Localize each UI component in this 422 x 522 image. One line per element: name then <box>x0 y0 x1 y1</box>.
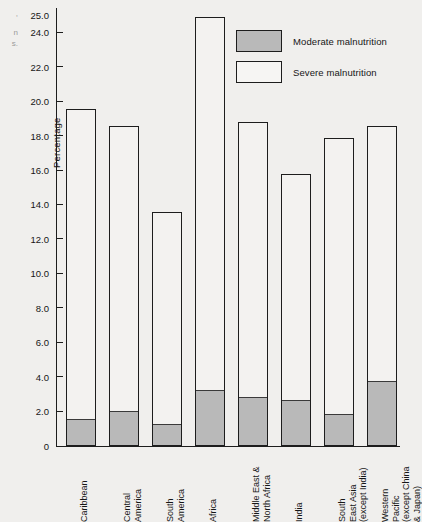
y-axis-tick-label: 6.0 <box>36 338 49 348</box>
y-axis-tick-label: 14.0 <box>31 200 50 210</box>
x-axis-labels: CaribbeanCentralAmericaSouthAmericaAfric… <box>56 451 400 522</box>
x-axis-label-line: India <box>294 451 305 522</box>
bar-caribbean <box>66 109 96 446</box>
y-axis-tick-label: 20.0 <box>31 97 50 107</box>
x-axis-label: CentralAmerica <box>122 451 143 522</box>
x-axis-label-line: Pacific <box>390 451 401 522</box>
x-axis-label-line: North Africa <box>261 451 272 522</box>
bar-india <box>281 174 311 446</box>
y-axis-tick-label: 0 <box>44 441 49 451</box>
bar-segment-moderate <box>196 390 224 445</box>
x-axis-label-line: & Japan) <box>411 451 422 522</box>
bar-segment-moderate <box>282 400 310 445</box>
edge-text-fragment-1: , <box>0 9 18 19</box>
x-axis-label-line: Central <box>122 451 133 522</box>
legend-label-moderate: Moderate malnutrition <box>293 36 387 47</box>
x-axis-label-line: Middle East & <box>251 451 262 522</box>
y-axis-tick-label: 18.0 <box>31 131 50 141</box>
x-axis-label: India <box>294 451 305 522</box>
bar-segment-moderate <box>153 424 181 445</box>
legend-swatch-severe-icon <box>236 61 282 83</box>
y-axis-tick-label: 22.0 <box>31 63 50 73</box>
bar-south-east-asia-except-india <box>324 138 354 446</box>
x-axis-label-line: East Asia <box>347 451 358 522</box>
y-axis-tick-label: 16.0 <box>31 166 50 176</box>
x-axis-label-line: America <box>175 451 186 522</box>
bar-middle-east-north-africa <box>238 122 268 446</box>
x-axis-label-line: (except China <box>401 451 412 522</box>
x-axis-label-line: Africa <box>208 451 219 522</box>
x-axis-label: WesternPacific(except China& Japan) <box>380 451 422 522</box>
x-axis-label-line: America <box>132 451 143 522</box>
bar-africa <box>195 17 225 446</box>
bar-segment-moderate <box>368 381 396 445</box>
bar-segment-moderate <box>325 414 353 445</box>
x-axis-label-line: Caribbean <box>79 451 90 522</box>
bar-central-america <box>109 126 139 446</box>
x-axis-label: SouthEast Asia(except India) <box>337 451 369 522</box>
x-axis-label-line: (except India) <box>358 451 369 522</box>
x-axis-label-line: South <box>165 451 176 522</box>
chart-legend: Moderate malnutrition Severe malnutritio… <box>236 30 387 92</box>
edge-text-fragment-3: s. <box>0 39 18 49</box>
bar-segment-moderate <box>239 397 267 445</box>
y-axis-tick-label: 24.0 <box>31 28 50 38</box>
legend-item-moderate: Moderate malnutrition <box>236 30 387 52</box>
edge-text-fragment-2: n <box>0 28 18 38</box>
x-axis-label: Middle East &North Africa <box>251 451 272 522</box>
bar-south-america <box>152 212 182 446</box>
y-axis-tick-label: 2.0 <box>36 407 49 417</box>
y-axis-tick-label: 25.0 <box>31 11 50 21</box>
x-axis-label: Caribbean <box>79 451 90 522</box>
y-axis-tick-label: 8.0 <box>36 304 49 314</box>
bar-segment-moderate <box>110 411 138 445</box>
y-axis-tick-label: 10.0 <box>31 269 50 279</box>
x-axis-label: SouthAmerica <box>165 451 186 522</box>
legend-swatch-moderate-icon <box>236 30 282 52</box>
y-axis-tick-label: 4.0 <box>36 372 49 382</box>
y-axis-tick-label: 12.0 <box>31 235 50 245</box>
bar-segment-moderate <box>67 419 95 445</box>
x-axis-label-line: South <box>337 451 348 522</box>
legend-item-severe: Severe malnutrition <box>236 61 387 83</box>
bar-western-pacific-except-china-japan <box>367 126 397 446</box>
x-axis-label: Africa <box>208 451 219 522</box>
legend-label-severe: Severe malnutrition <box>293 67 377 78</box>
x-axis-label-line: Western <box>380 451 391 522</box>
